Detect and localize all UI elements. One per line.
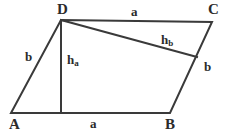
geometry-figure: D C A B a a b b ha hb (0, 0, 232, 135)
vertex-label-d: D (57, 2, 68, 17)
vertex-label-a: A (9, 117, 20, 132)
vertex-label-c: C (208, 2, 219, 17)
height-hb-line (61, 20, 197, 57)
side-label-b-right: b (204, 60, 211, 73)
height-label-ha: ha (67, 53, 79, 66)
height-label-hb: hb (161, 33, 173, 46)
height-label-hb-subscript: b (168, 38, 173, 48)
side-label-a-top: a (131, 5, 138, 18)
parallelogram-drawing (0, 0, 232, 135)
vertex-label-b: B (165, 117, 175, 132)
height-label-ha-subscript: a (74, 58, 79, 68)
side-label-a-bottom: a (90, 117, 97, 130)
side-label-b-left: b (25, 50, 32, 63)
